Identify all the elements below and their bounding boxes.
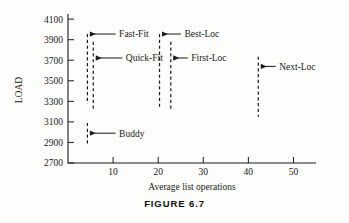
series-annotations: Fast-FitQuick-FitBest-LocFirst-LocNext-L… <box>90 29 316 138</box>
x-axis-title: Average list operations <box>148 182 236 192</box>
y-tick-label: 3100 <box>44 117 63 127</box>
data-bars <box>87 34 258 144</box>
y-axis-ticks: 27002900310033003500370039004100 <box>44 15 74 169</box>
chart-plot: 27002900310033003500370039004100 1020304… <box>0 0 349 223</box>
y-tick-label: 3300 <box>44 97 63 107</box>
series-label-next-loc: Next-Loc <box>279 62 315 72</box>
y-tick-label: 3700 <box>44 56 63 66</box>
y-axis-title: LOAD <box>14 77 24 104</box>
series-label-buddy: Buddy <box>119 129 145 139</box>
x-tick-label: 50 <box>289 167 299 177</box>
x-tick-label: 20 <box>153 167 163 177</box>
figure-container: 27002900310033003500370039004100 1020304… <box>0 0 349 223</box>
y-tick-label: 2700 <box>44 158 63 168</box>
figure-caption: FIGURE 6.7 <box>0 198 349 209</box>
series-label-first-loc: First-Loc <box>191 53 226 63</box>
y-tick-label: 2900 <box>44 138 63 148</box>
x-axis-ticks: 1020304050 <box>108 157 298 177</box>
y-tick-label: 3900 <box>44 35 63 45</box>
x-tick-label: 10 <box>108 167 118 177</box>
x-tick-label: 40 <box>244 167 254 177</box>
y-tick-label: 3500 <box>44 76 63 86</box>
y-tick-label: 4100 <box>44 15 63 25</box>
series-label-quick-fit: Quick-Fit <box>126 53 163 63</box>
series-label-best-loc: Best-Loc <box>184 29 219 39</box>
series-label-fast-fit: Fast-Fit <box>119 29 149 39</box>
x-tick-label: 30 <box>199 167 209 177</box>
